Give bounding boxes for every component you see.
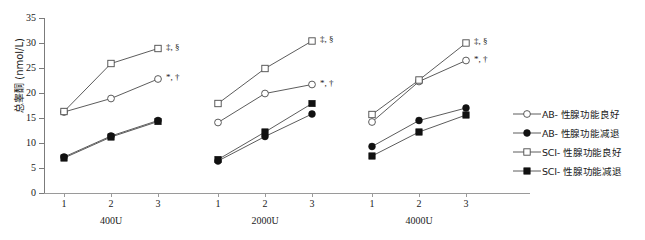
data-point-marker: [309, 81, 316, 88]
data-point-marker: [262, 65, 268, 71]
data-point-marker: [215, 100, 221, 106]
data-point-marker: [309, 100, 315, 106]
legend-marker-filled-square-icon: [512, 164, 542, 178]
data-point-marker: [463, 105, 470, 112]
series-line: [372, 61, 466, 123]
data-point-marker: [155, 76, 162, 83]
data-point-marker: [108, 60, 114, 66]
data-point-marker: [369, 111, 375, 117]
data-point-marker: [155, 45, 161, 51]
legend-item: SCI- 性腺功能良好: [512, 142, 645, 161]
data-point-marker: [369, 153, 375, 159]
data-point-marker: [463, 57, 470, 64]
data-point-marker: [463, 112, 469, 118]
legend-marker: [524, 110, 531, 117]
data-point-marker: [61, 155, 67, 161]
legend-marker: [524, 167, 530, 173]
data-point-marker: [155, 118, 161, 124]
data-point-marker: [416, 129, 422, 135]
legend-label: AB- 性腺功能减退: [542, 126, 619, 140]
data-point-marker: [309, 38, 315, 44]
data-point-marker: [262, 90, 269, 97]
data-point-marker: [215, 119, 222, 126]
significance-annotation: ‡, §: [166, 43, 180, 52]
significance-annotation: ‡, §: [474, 37, 488, 46]
legend-item: SCI- 性腺功能减退: [512, 161, 645, 180]
data-point-marker: [215, 156, 221, 162]
legend-item: AB- 性腺功能良好: [512, 104, 645, 123]
legend-label: AB- 性腺功能良好: [542, 107, 619, 121]
legend-marker-open-circle-icon: [512, 107, 542, 121]
data-point-marker: [262, 129, 268, 135]
significance-annotation: *, †: [166, 73, 180, 82]
data-point-marker: [416, 117, 423, 124]
data-point-marker: [369, 143, 376, 150]
significance-annotation: *, †: [320, 79, 334, 88]
data-point-marker: [416, 77, 422, 83]
data-point-marker: [108, 95, 115, 102]
legend-marker: [524, 148, 530, 154]
data-point-marker: [463, 40, 469, 46]
legend-label: SCI- 性腺功能减退: [542, 164, 622, 178]
legend-label: SCI- 性腺功能良好: [542, 145, 622, 159]
chart-container: 总睾酮 (nmol/L) 05101520253035 123400U12320…: [0, 0, 645, 240]
significance-annotation: ‡, §: [320, 35, 334, 44]
legend-marker-filled-circle-icon: [512, 126, 542, 140]
legend-marker-open-square-icon: [512, 145, 542, 159]
legend-marker: [524, 129, 531, 136]
data-point-marker: [369, 119, 376, 126]
significance-annotation: *, †: [474, 55, 488, 64]
legend-item: AB- 性腺功能减退: [512, 123, 645, 142]
data-point-marker: [108, 134, 114, 140]
series-line: [372, 108, 466, 147]
legend: AB- 性腺功能良好AB- 性腺功能减退SCI- 性腺功能良好SCI- 性腺功能…: [512, 104, 645, 180]
data-point-marker: [309, 111, 316, 118]
data-point-marker: [61, 108, 67, 114]
